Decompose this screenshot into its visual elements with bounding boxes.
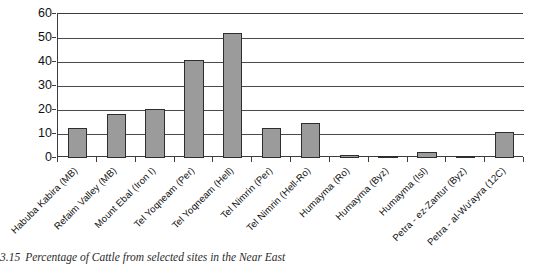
x-tick-mark [57,157,58,162]
bar [107,114,126,158]
x-tick-mark [368,157,369,162]
figure-caption: 3.15Percentage of Cattle from selected s… [0,251,533,265]
x-axis-ticks [57,157,523,162]
bar [495,132,514,158]
figure-container: 0102030405060 Habuba Kabira (MB)Refaim V… [0,0,533,265]
x-tick-mark [445,157,446,162]
y-tick-label: 40 [6,55,52,67]
x-tick-mark [96,157,97,162]
x-tick-mark [290,157,291,162]
bar [301,123,320,158]
bar [184,60,203,158]
x-tick-mark [329,157,330,162]
x-tick-mark [135,157,136,162]
figure-caption-text: Percentage of Cattle from selected sites… [25,251,285,263]
x-tick-mark [407,157,408,162]
y-tick-mark [52,133,56,134]
figure-number: 3.15 [0,251,20,263]
bar [223,33,242,158]
y-tick-mark [52,37,56,38]
bar [262,128,281,158]
y-tick-mark [52,61,56,62]
y-axis: 0102030405060 [0,13,52,157]
x-tick-mark [212,157,213,162]
y-tick-mark [52,85,56,86]
y-tick-label: 20 [6,103,52,115]
bar-series [58,14,524,158]
y-tick-mark [52,109,56,110]
bar [145,109,164,158]
bar [68,128,87,158]
y-tick-mark [52,13,56,14]
x-tick-mark [484,157,485,162]
y-tick-label: 60 [6,7,52,19]
y-tick-label: 30 [6,79,52,91]
x-tick-mark [523,157,524,162]
x-tick-mark [174,157,175,162]
y-tick-label: 50 [6,31,52,43]
y-tick-label: 0 [6,151,52,163]
x-tick-mark [251,157,252,162]
y-tick-label: 10 [6,127,52,139]
y-tick-mark [52,157,56,158]
plot-area [57,13,523,157]
